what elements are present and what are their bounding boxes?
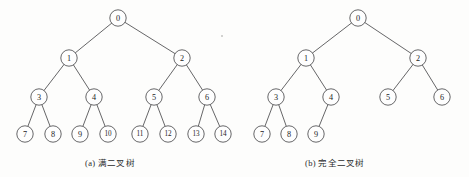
edges-layer: [28, 22, 438, 126]
tree-node[interactable]: 14: [215, 126, 231, 142]
node-label: 9: [314, 130, 318, 139]
nodes-layer: 012345678910111213140123456789: [17, 10, 450, 142]
tree-edge: [75, 23, 111, 53]
tree-node[interactable]: 5: [146, 89, 162, 105]
tree-edge: [143, 105, 151, 127]
tree-node[interactable]: 4: [323, 89, 339, 105]
tree-edge: [279, 105, 287, 127]
edge-group-panel-a: [28, 22, 220, 126]
node-label: 8: [51, 130, 55, 139]
tree-node[interactable]: 0: [110, 10, 126, 26]
tree-node[interactable]: 9: [72, 126, 88, 142]
node-label: 0: [356, 14, 360, 23]
node-label: 12: [164, 130, 172, 138]
tree-node[interactable]: 13: [188, 126, 204, 142]
node-label: 8: [287, 130, 291, 139]
tree-node[interactable]: 2: [174, 50, 190, 66]
node-label: 0: [116, 14, 120, 23]
tree-edge: [210, 105, 220, 127]
binary-tree-svg: 012345678910111213140123456789: [0, 0, 469, 177]
node-label: 6: [440, 93, 444, 102]
tree-node[interactable]: 1: [61, 50, 77, 66]
node-label: 6: [205, 93, 209, 102]
caption-panel-a: (a) 满二叉树: [85, 156, 135, 168]
tree-edge: [393, 65, 413, 91]
tree-node[interactable]: 9: [308, 126, 324, 142]
tree-edge: [44, 65, 64, 91]
tree-node[interactable]: 3: [268, 89, 284, 105]
tree-edge: [125, 22, 175, 53]
tree-edge: [28, 105, 36, 127]
tree-node[interactable]: 10: [100, 126, 116, 142]
tree-edge: [319, 105, 328, 127]
node-label: 7: [260, 130, 264, 139]
tree-node[interactable]: 7: [17, 126, 33, 142]
node-label: 2: [180, 54, 184, 63]
node-label: 3: [37, 93, 41, 102]
tree-node[interactable]: 1: [298, 50, 314, 66]
node-label: 5: [152, 93, 156, 102]
tree-node[interactable]: 4: [86, 89, 102, 105]
node-label: 3: [274, 93, 278, 102]
tree-node[interactable]: 0: [350, 10, 366, 26]
tree-edge: [97, 105, 105, 127]
tree-edge: [83, 105, 91, 127]
tree-node[interactable]: 8: [281, 126, 297, 142]
node-label: 11: [137, 130, 144, 138]
tree-node[interactable]: 8: [45, 126, 61, 142]
tree-edge: [281, 65, 301, 91]
tree-edge: [157, 105, 165, 127]
tree-edge: [365, 23, 411, 54]
tree-node[interactable]: 5: [380, 89, 396, 105]
node-label: 9: [78, 130, 82, 139]
edge-group-panel-b: [265, 23, 438, 127]
tree-edge: [42, 105, 50, 127]
node-label: 7: [23, 130, 27, 139]
node-label: 4: [92, 93, 96, 102]
node-label: 10: [104, 130, 112, 138]
node-label: 14: [219, 130, 227, 138]
tree-edge: [73, 65, 89, 90]
figure-canvas: 012345678910111213140123456789 (a) 满二叉树 …: [0, 0, 469, 177]
tree-node[interactable]: 6: [199, 89, 215, 105]
tree-node[interactable]: 7: [254, 126, 270, 142]
tree-edge: [159, 65, 177, 91]
caption-panel-b: (b) 完全二叉树: [305, 156, 365, 168]
tree-edge: [422, 65, 437, 90]
tree-edge: [265, 105, 273, 127]
tree-node[interactable]: 12: [160, 126, 176, 142]
tree-node[interactable]: 3: [31, 89, 47, 105]
tree-edge: [198, 105, 204, 126]
node-label: 1: [67, 54, 71, 63]
node-label: 5: [386, 93, 390, 102]
node-label: 2: [416, 54, 420, 63]
tree-node[interactable]: 11: [132, 126, 148, 142]
scan-artifact: [221, 35, 223, 37]
tree-edge: [186, 65, 202, 90]
tree-edge: [313, 23, 352, 53]
node-label: 13: [192, 130, 200, 138]
node-label: 4: [329, 93, 333, 102]
node-label: 1: [304, 54, 308, 63]
node-group-panel-b: 0123456789: [254, 10, 450, 142]
tree-node[interactable]: 2: [410, 50, 426, 66]
tree-edge: [310, 65, 326, 90]
tree-node[interactable]: 6: [434, 89, 450, 105]
